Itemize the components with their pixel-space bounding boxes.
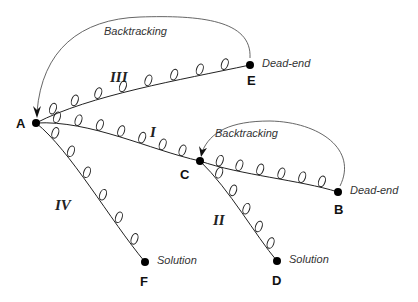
node-a-dot [32,119,40,127]
path-label-ii: II [212,212,226,228]
path-loop [82,166,92,179]
node-e-label: E [247,73,256,88]
path-loop [317,175,327,188]
node-c-dot [196,157,204,165]
path-loop [297,171,307,184]
path-iv-line [36,123,145,262]
path-loop [195,63,205,76]
node-b-label: B [334,202,343,217]
path-loop [74,114,84,127]
node-d-label: D [272,273,281,288]
path-loop [214,167,224,180]
node-b-dot [334,188,342,196]
node-d-dot [273,257,281,265]
path-loop [220,58,230,71]
node-f-annotation: Solution [157,254,197,266]
path-loop [50,127,60,140]
path-loop [169,68,179,81]
path-loop [130,233,140,246]
path-loop [116,125,126,138]
node-a-label: A [16,116,26,131]
path-loop [144,74,154,87]
path-i-line [36,123,200,161]
path-loop [242,202,252,215]
path-loop [235,159,245,172]
node-f-dot [141,258,149,266]
path-iii-line [36,65,250,123]
path-loop [70,94,80,107]
node-e-annotation: Dead-end [262,57,311,69]
backtracking-label-middle: Backtracking [215,127,279,139]
arrow-head-c [199,146,207,157]
node-e-dot [246,61,254,69]
path-loop [266,237,276,250]
path-loop [215,154,225,167]
search-nodes: ABDead-endCDSolutionEDead-endFSolution [16,57,399,289]
path-label-iii: III [109,69,129,85]
path-loop [254,220,264,233]
path-loop [178,144,188,157]
path-loop [98,188,108,201]
node-b-annotation: Dead-end [350,184,399,196]
backtracking-label-top: Backtracking [104,25,168,37]
path-loop [114,211,124,224]
path-loop [137,131,147,144]
path-loop [66,145,76,158]
node-c-label: C [180,167,190,182]
search-paths [36,58,338,262]
path-loop [228,184,238,197]
node-f-label: F [140,274,148,289]
path-loop [95,119,105,132]
path-loop [277,167,287,180]
path-label-i: I [149,124,157,140]
path-loop [93,87,103,100]
path-loop [158,138,168,151]
backtracking-diagram: ABDead-endCDSolutionEDead-endFSolution B… [0,0,418,302]
node-d-annotation: Solution [289,253,329,265]
path-loop [255,163,265,176]
path-label-iv: IV [54,197,73,213]
